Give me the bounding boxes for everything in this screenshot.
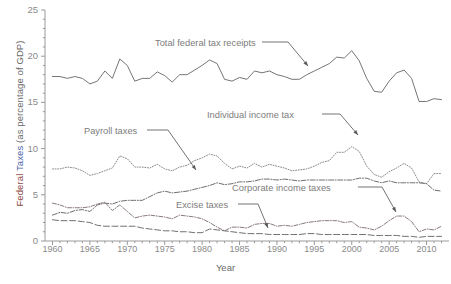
- figure-caption-fragment: [232, 275, 451, 284]
- leader-line-individual: [322, 114, 358, 135]
- series-line-corporate-income-taxes: [52, 202, 441, 232]
- leader-arrowhead-payroll: [192, 165, 196, 170]
- plot-area: [0, 0, 451, 284]
- series-line-excise-taxes: [52, 220, 441, 238]
- series-line-total-federal-tax-receipts: [52, 51, 441, 102]
- chart-figure: Federal Taxes (as percentage of GDP) Yea…: [0, 0, 451, 284]
- series-line-individual-income-tax: [52, 147, 441, 184]
- leader-line-corporate: [358, 187, 396, 212]
- leader-arrowhead-corporate: [392, 207, 396, 212]
- leader-line-excise: [238, 204, 268, 228]
- leader-line-total: [262, 42, 308, 66]
